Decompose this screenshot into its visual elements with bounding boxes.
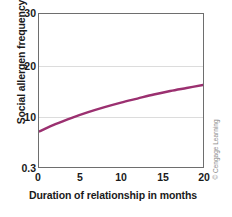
x-tick-label-5: 5 <box>65 171 95 183</box>
copyright-credit: © Cengage Learning <box>212 95 219 205</box>
x-tick-label-15: 15 <box>148 171 178 183</box>
x-axis-tick-labels: 0 5 10 15 20 <box>0 171 232 185</box>
plot-area <box>38 13 204 168</box>
y-tick-label-20: 20 <box>2 60 36 72</box>
y-tick-label-30: 30 <box>2 7 36 19</box>
x-tick-label-10: 10 <box>106 171 136 183</box>
y-tick-label-10: 10 <box>2 111 36 123</box>
series-curve-svg <box>39 14 203 167</box>
chart-figure: Social allergen frequency 30 20 10 0.3 0… <box>0 0 232 217</box>
x-axis-title: Duration of relationship in months <box>20 189 206 201</box>
series-curve-social-allergen-frequency <box>39 85 203 132</box>
x-tick-label-0: 0 <box>23 171 53 183</box>
